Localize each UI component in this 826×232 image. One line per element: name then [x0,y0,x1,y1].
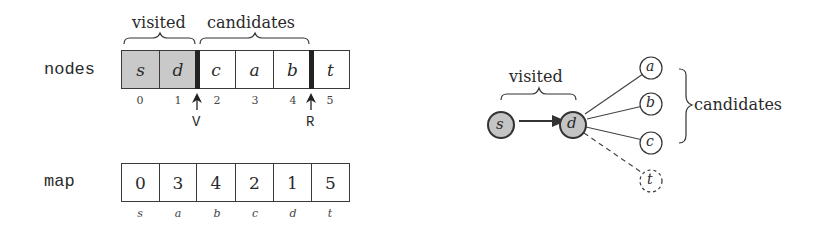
pointer-v-arrow [192,93,202,110]
graph-node-t-label: t [647,171,653,187]
right-candidates-brace [679,69,692,143]
right-visited-label: visited [509,67,563,86]
right-candidates-label: candidates [694,95,782,114]
diagram-lines [0,0,826,232]
graph-node-s-label: s [496,115,504,133]
graph-node-b-label: b [646,94,655,110]
right-visited-brace [501,88,576,100]
graph-node-c-label: c [646,133,654,149]
visited-brace [124,33,195,44]
graph-node-a-label: a [646,58,654,74]
pointer-r-arrow [306,93,316,110]
candidates-brace [200,33,309,44]
graph-node-d-label: d [567,114,577,132]
